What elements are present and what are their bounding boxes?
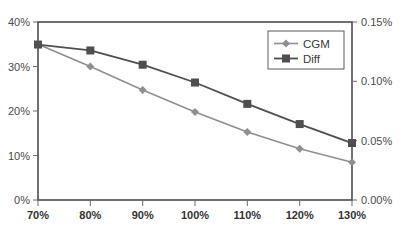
- square-marker-icon: [282, 55, 290, 63]
- y2-axis-label-000: 0.00%: [361, 194, 392, 206]
- legend-label-cgm: CGM: [303, 38, 330, 50]
- x-axis-label-130: 130%: [338, 209, 366, 221]
- square-marker-icon: [34, 41, 42, 49]
- y2-axis-label-015: 0.15%: [361, 16, 392, 28]
- chart-container: 0% 10% 20% 30% 40% 0.00% 0.05% 0.10% 0.1…: [0, 0, 408, 231]
- y-axis-right-labels: 0.00% 0.05% 0.10% 0.15%: [361, 16, 392, 206]
- y2-axis-label-010: 0.10%: [361, 75, 392, 87]
- x-axis-label-110: 110%: [234, 209, 262, 221]
- x-axis-label-70: 70%: [27, 209, 49, 221]
- x-axis-label-120: 120%: [286, 209, 314, 221]
- legend: CGM Diff: [268, 31, 344, 69]
- y-axis-label-0: 0%: [14, 194, 30, 206]
- y-axis-label-40: 40%: [8, 16, 30, 28]
- y-axis-label-10: 10%: [8, 150, 30, 162]
- square-marker-icon: [86, 46, 94, 54]
- line-chart: 0% 10% 20% 30% 40% 0.00% 0.05% 0.10% 0.1…: [0, 0, 408, 231]
- y-axis-label-20: 20%: [8, 105, 30, 117]
- square-marker-icon: [139, 61, 147, 69]
- x-axis-label-100: 100%: [181, 209, 209, 221]
- y-axis-label-30: 30%: [8, 61, 30, 73]
- x-axis-label-80: 80%: [79, 209, 101, 221]
- x-axis-label-90: 90%: [132, 209, 154, 221]
- square-marker-icon: [348, 139, 356, 147]
- square-marker-icon: [191, 79, 199, 87]
- y2-axis-label-005: 0.05%: [361, 135, 392, 147]
- y-axis-left-labels: 0% 10% 20% 30% 40%: [8, 16, 30, 206]
- x-axis-ticks: [38, 200, 352, 206]
- square-marker-icon: [243, 100, 251, 108]
- square-marker-icon: [296, 120, 304, 128]
- legend-label-diff: Diff: [303, 53, 321, 65]
- x-axis-labels: 70% 80% 90% 100% 110% 120% 130%: [27, 209, 366, 221]
